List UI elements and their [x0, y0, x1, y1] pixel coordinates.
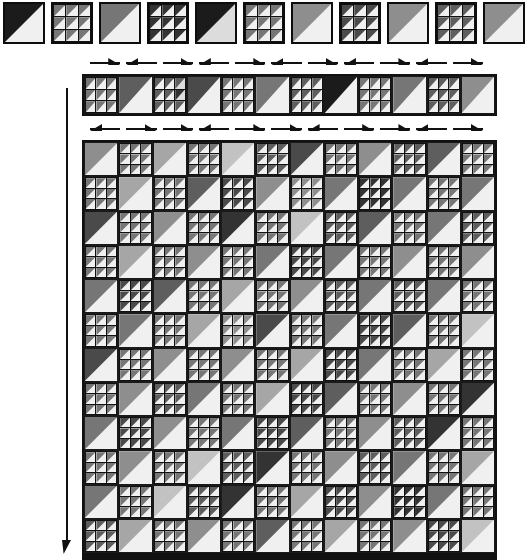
solid-triangle-tile	[325, 383, 357, 415]
sub-tile-cell	[257, 428, 266, 437]
sub-tile-cell	[244, 473, 253, 482]
sub-tile-cell	[233, 463, 242, 472]
sub-tile-cell	[96, 326, 105, 335]
grid-tile-r9-c11	[461, 450, 495, 484]
solid-triangle-tile	[462, 314, 494, 346]
sub-tile-cell	[292, 384, 301, 393]
grid-tile-r2-c1	[118, 211, 152, 245]
subdivided-tile	[188, 143, 220, 175]
grid-tile-r10-c1	[118, 485, 152, 519]
sub-tile-cell	[370, 394, 379, 403]
grid-tile-r7-c0	[84, 382, 118, 416]
solid-triangle-tile	[291, 349, 323, 381]
sub-tile-cell	[429, 199, 438, 208]
sub-tile-cell	[415, 213, 424, 222]
grid-tile-r1-c2	[153, 176, 187, 210]
grid-tile-r8-c0	[84, 416, 118, 450]
sub-tile-cell	[484, 154, 493, 163]
sub-tile-cell	[210, 418, 219, 427]
sub-tile-cell	[302, 257, 311, 266]
sub-tile-cell	[336, 223, 345, 232]
sub-tile-cell	[233, 521, 242, 530]
sub-tile-cell	[165, 452, 174, 461]
sub-tile-cell	[86, 531, 95, 540]
grid-tile-r9-c7	[324, 450, 358, 484]
grid-tile-r5-c5	[255, 313, 289, 347]
grid-tile-r1-c4	[221, 176, 255, 210]
sub-tile-cell	[120, 350, 129, 359]
sub-tile-cell	[107, 189, 116, 198]
grid-tile-r9-c2	[153, 450, 187, 484]
sub-tile-cell	[268, 439, 277, 448]
sub-tile-cell	[463, 165, 472, 174]
sub-tile-cell	[473, 439, 482, 448]
sub-tile-cell	[360, 473, 369, 482]
sub-tile-cell	[199, 418, 208, 427]
sub-tile-cell	[302, 247, 311, 256]
sub-tile-cell	[449, 521, 458, 530]
sub-tile-cell	[189, 233, 198, 242]
sub-tile-cell	[292, 463, 301, 472]
sub-tile-cell	[278, 154, 287, 163]
sub-tile-cell	[278, 370, 287, 379]
sub-tile-cell	[292, 189, 301, 198]
sub-tile-cell	[107, 199, 116, 208]
sub-tile-cell	[233, 336, 242, 345]
sub-tile-cell	[199, 428, 208, 437]
solid-triangle-tile	[462, 451, 494, 483]
grid-tile-r10-c11	[461, 485, 495, 519]
arrow-left-icon	[90, 124, 120, 131]
grid-tile-r7-c11	[461, 382, 495, 416]
grid-tile-r10-c10	[427, 485, 461, 519]
sub-tile-cell	[370, 473, 379, 482]
sub-tile-cell	[131, 233, 140, 242]
sub-tile-cell	[223, 521, 232, 530]
subdivided-tile	[325, 349, 357, 381]
sub-tile-cell	[370, 336, 379, 345]
subdivided-tile	[462, 486, 494, 518]
sub-tile-cell	[463, 302, 472, 311]
sub-tile-cell	[302, 315, 311, 324]
grid-tile-r6-c4	[221, 348, 255, 382]
solid-triangle-tile	[154, 280, 186, 312]
grid-tile-r8-c4	[221, 416, 255, 450]
sub-tile-cell	[268, 144, 277, 153]
vertical-arrow-head-icon	[62, 540, 71, 554]
sub-tile-cell	[96, 473, 105, 482]
sub-tile-cell	[312, 405, 321, 414]
sub-tile-cell	[336, 370, 345, 379]
sub-tile-cell	[165, 189, 174, 198]
sub-tile-cell	[175, 257, 184, 266]
sub-tile-cell	[394, 154, 403, 163]
sub-tile-cell	[244, 531, 253, 540]
subdivided-tile	[428, 246, 460, 278]
sub-tile-cell	[278, 487, 287, 496]
grid-tile-r4-c2	[153, 279, 187, 313]
grid-tile-r0-c9	[392, 142, 426, 176]
grid-tile-r1-c11	[461, 176, 495, 210]
sub-tile-cell	[326, 350, 335, 359]
sub-tile-cell	[210, 165, 219, 174]
grid-tile-r2-c4	[221, 211, 255, 245]
grid-tile-r7-c6	[290, 382, 324, 416]
sub-tile-cell	[189, 507, 198, 516]
sub-tile-cell	[175, 199, 184, 208]
sub-tile-cell	[189, 165, 198, 174]
grid-tile-r3-c6	[290, 245, 324, 279]
sub-tile-cell	[268, 507, 277, 516]
subdivided-tile	[325, 486, 357, 518]
sub-tile-cell	[268, 497, 277, 506]
sub-tile-cell	[347, 428, 356, 437]
solid-triangle-tile	[256, 520, 288, 552]
sub-tile-cell	[120, 507, 129, 516]
sub-tile-cell	[199, 487, 208, 496]
sub-tile-cell	[257, 439, 266, 448]
sub-tile-cell	[268, 360, 277, 369]
sub-tile-cell	[473, 428, 482, 437]
sub-tile-cell	[336, 154, 345, 163]
grid-tile-r4-c11	[461, 279, 495, 313]
sub-tile-cell	[86, 336, 95, 345]
grid-tile-r11-c9	[392, 519, 426, 553]
subdivided-tile	[462, 212, 494, 244]
sub-tile-cell	[244, 336, 253, 345]
